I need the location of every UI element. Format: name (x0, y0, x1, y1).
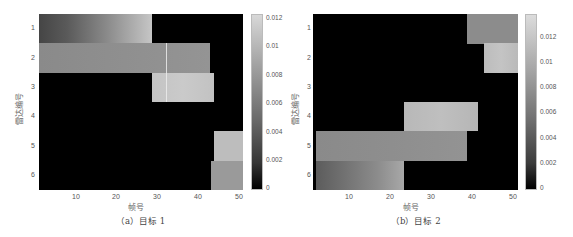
xtick-b-20: 20 (382, 193, 398, 200)
xtick-b-50: 50 (505, 193, 521, 200)
ytick-b-6: 6 (301, 171, 311, 178)
ctick-b-001: 0.01 (540, 58, 553, 65)
ytick-b-1: 1 (301, 24, 311, 31)
ctick-b-0012: 0.012 (540, 33, 556, 40)
segment-b-radar5 (316, 131, 467, 160)
ytick-b-4: 4 (301, 112, 311, 119)
colorbar-b (525, 14, 537, 190)
xtick-b-40: 40 (464, 193, 480, 200)
segment-b-radar2 (484, 43, 518, 72)
ctick-b-0002: 0.002 (540, 159, 556, 166)
ytick-b-2: 2 (301, 54, 311, 61)
segment-b-radar6 (316, 161, 404, 190)
xtick-b-10: 10 (341, 193, 357, 200)
caption-b: （b）目标 2 (391, 214, 441, 226)
ylabel-b: 雷达编号 (289, 93, 300, 125)
xlabel-b: 帧号 (403, 201, 419, 212)
ytick-b-5: 5 (301, 142, 311, 149)
segment-b-radar4 (404, 102, 478, 131)
panel-b: 1 2 3 4 5 6 10 20 30 40 50 雷达编号 帧号 （b）目标… (0, 0, 573, 237)
ctick-b-0008: 0.008 (540, 83, 556, 90)
segment-b-radar1 (467, 14, 518, 44)
ytick-b-3: 3 (301, 83, 311, 90)
ctick-b-0: 0 (540, 184, 544, 191)
ctick-b-0004: 0.004 (540, 134, 556, 141)
ctick-b-0006: 0.006 (540, 108, 556, 115)
heatmap-b (313, 14, 518, 190)
xtick-b-30: 30 (423, 193, 439, 200)
